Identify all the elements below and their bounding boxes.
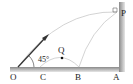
label-c: C — [40, 72, 46, 82]
angle-arc — [29, 56, 34, 67]
trajectory-p-to-b — [79, 12, 117, 67]
right-angle-marker — [113, 8, 117, 12]
point-q — [61, 57, 64, 60]
label-q: Q — [58, 45, 65, 55]
label-p: P — [121, 8, 126, 18]
angle-label: 45° — [38, 55, 49, 64]
label-a: A — [113, 72, 120, 82]
projectile-diagram: O C B A P Q 45° — [0, 0, 133, 84]
ground — [10, 67, 120, 72]
label-b: B — [75, 72, 81, 82]
label-o: O — [10, 72, 17, 82]
